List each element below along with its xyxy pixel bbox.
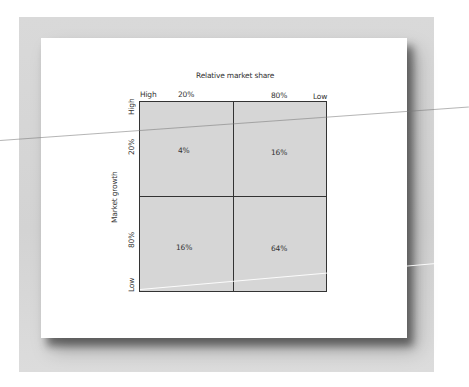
y-tick-low: Low	[127, 278, 136, 292]
x-axis-title: Relative market share	[196, 71, 274, 80]
horizontal-divider	[140, 196, 326, 197]
cell-high-high: 4%	[178, 146, 190, 155]
y-axis-title: Market growth	[110, 171, 119, 223]
cell-high-low: 16%	[271, 148, 287, 157]
y-tick-20: 20%	[127, 139, 136, 155]
x-tick-high: High	[140, 90, 156, 99]
x-tick-20: 20%	[178, 90, 194, 99]
cell-low-high: 16%	[176, 243, 192, 252]
y-tick-high: High	[127, 99, 136, 115]
x-tick-low: Low	[313, 92, 327, 101]
matrix-grid: 4% 16% 16% 64%	[139, 101, 327, 292]
cell-low-low: 64%	[271, 244, 287, 253]
y-tick-80: 80%	[127, 232, 136, 248]
x-tick-80: 80%	[271, 91, 287, 100]
